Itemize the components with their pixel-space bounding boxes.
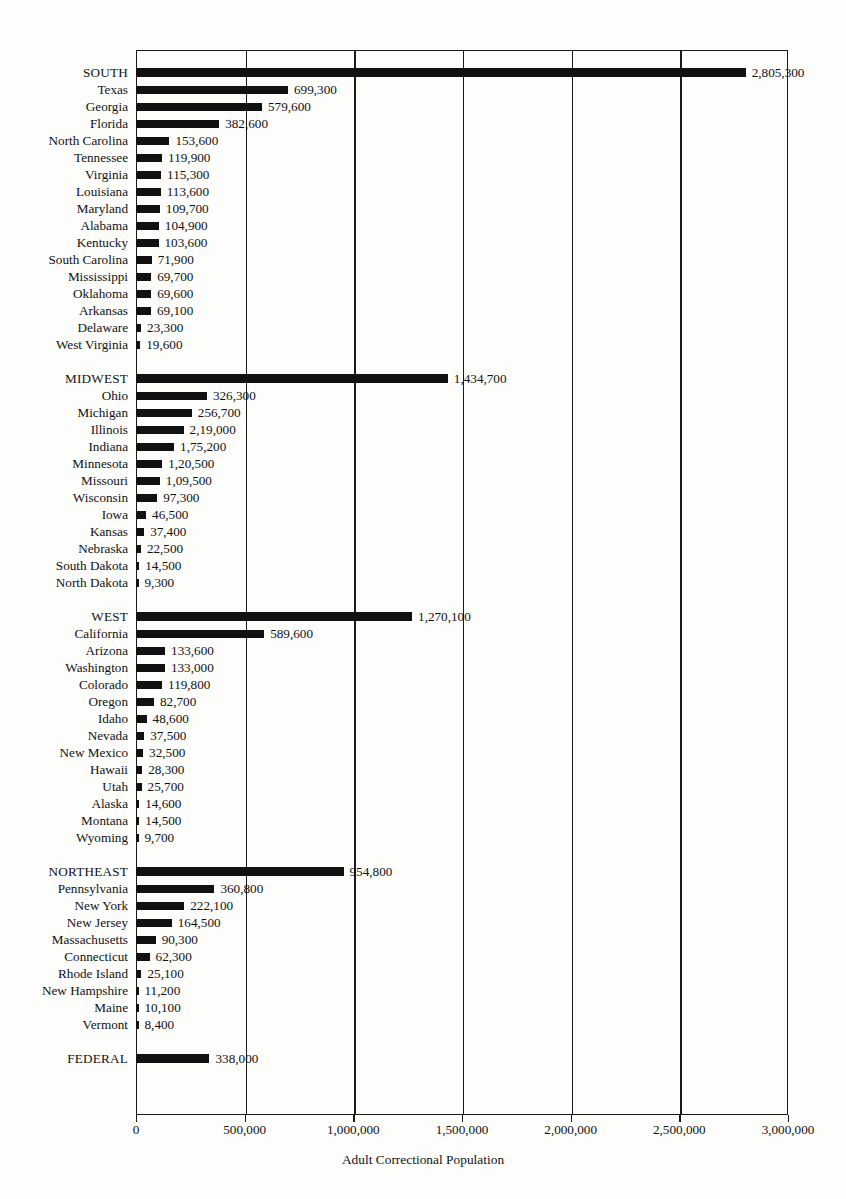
bar <box>136 817 139 825</box>
bar-value-label: 2,805,300 <box>752 64 805 81</box>
bar-value-label: 82,700 <box>160 693 196 710</box>
bar-row: Wyoming9,700 <box>0 829 846 846</box>
bar-row: Mississippi69,700 <box>0 268 846 285</box>
bar <box>136 103 262 111</box>
bar-value-label: 69,600 <box>157 285 193 302</box>
bar <box>136 324 141 332</box>
bar-value-label: 699,300 <box>294 81 337 98</box>
state-label: Arkansas <box>0 302 128 319</box>
bar-value-label: 90,300 <box>162 931 198 948</box>
state-label: Indiana <box>0 438 128 455</box>
bar-row: Oregon82,700 <box>0 693 846 710</box>
bar-value-label: 25,700 <box>148 778 184 795</box>
bar <box>136 545 141 553</box>
state-label: West Virginia <box>0 336 128 353</box>
bar-row: Missouri1,09,500 <box>0 472 846 489</box>
bar-value-label: 23,300 <box>147 319 183 336</box>
bar-value-label: 71,900 <box>158 251 194 268</box>
page-bleed-artifact <box>0 1182 846 1198</box>
bar <box>136 732 144 740</box>
bar <box>136 885 214 893</box>
state-label: Kansas <box>0 523 128 540</box>
bar <box>136 970 141 978</box>
bar-row: Colorado119,800 <box>0 676 846 693</box>
bar-row: Illinois2,19,000 <box>0 421 846 438</box>
state-label: Delaware <box>0 319 128 336</box>
bar-value-label: 954,800 <box>350 863 393 880</box>
bar <box>136 953 150 961</box>
bar-row: Connecticut62,300 <box>0 948 846 965</box>
state-label: New Mexico <box>0 744 128 761</box>
bar-value-label: 2,19,000 <box>190 421 236 438</box>
x-axis-tick <box>679 1115 680 1122</box>
bar-row: Vermont8,400 <box>0 1016 846 1033</box>
bar <box>136 290 151 298</box>
bar-value-label: 37,400 <box>150 523 186 540</box>
x-axis-tick <box>353 1115 354 1122</box>
bar-value-label: 1,20,500 <box>168 455 214 472</box>
state-label: Alaska <box>0 795 128 812</box>
bar <box>136 698 154 706</box>
bar-row: Minnesota1,20,500 <box>0 455 846 472</box>
bar-row: Michigan256,700 <box>0 404 846 421</box>
bar <box>136 681 162 689</box>
region-label: WEST <box>0 608 128 625</box>
bar-value-label: 37,500 <box>150 727 186 744</box>
bar-value-label: 48,600 <box>153 710 189 727</box>
bar-row: Georgia579,600 <box>0 98 846 115</box>
state-label: Florida <box>0 115 128 132</box>
bar-value-label: 113,600 <box>167 183 209 200</box>
bar-row: Nebraska22,500 <box>0 540 846 557</box>
bar-chart: SOUTH2,805,300Texas699,300Georgia579,600… <box>0 0 846 1199</box>
bar <box>136 511 146 519</box>
state-label: Hawaii <box>0 761 128 778</box>
bar <box>136 273 151 281</box>
state-label: Michigan <box>0 404 128 421</box>
bar <box>136 494 157 502</box>
state-label: Minnesota <box>0 455 128 472</box>
state-label: Iowa <box>0 506 128 523</box>
bar-row: Utah25,700 <box>0 778 846 795</box>
bar-value-label: 1,75,200 <box>180 438 226 455</box>
x-axis-tick <box>136 1115 137 1122</box>
state-label: North Dakota <box>0 574 128 591</box>
bar-value-label: 589,600 <box>270 625 313 642</box>
state-label: Mississippi <box>0 268 128 285</box>
bar-value-label: 256,700 <box>198 404 241 421</box>
bar <box>136 154 162 162</box>
bar-row: New York222,100 <box>0 897 846 914</box>
bar-value-label: 164,500 <box>178 914 221 931</box>
bar-value-label: 1,434,700 <box>454 370 507 387</box>
bar-row: Alabama104,900 <box>0 217 846 234</box>
bar-value-label: 14,500 <box>145 557 181 574</box>
bar <box>136 834 139 842</box>
bar-row: Louisiana113,600 <box>0 183 846 200</box>
bar-value-label: 22,500 <box>147 540 183 557</box>
state-label: Oregon <box>0 693 128 710</box>
bar <box>136 188 161 196</box>
region-label: SOUTH <box>0 64 128 81</box>
state-label: Colorado <box>0 676 128 693</box>
bar <box>136 68 746 77</box>
bar-row: WEST1,270,100 <box>0 608 846 625</box>
bar-value-label: 62,300 <box>156 948 192 965</box>
bar <box>136 612 412 621</box>
bar <box>136 409 192 417</box>
bar-value-label: 222,100 <box>190 897 233 914</box>
bar <box>136 936 156 944</box>
bar-row: Idaho48,600 <box>0 710 846 727</box>
bar <box>136 987 139 995</box>
bar-value-label: 10,100 <box>145 999 181 1016</box>
bar-row: Montana14,500 <box>0 812 846 829</box>
bar <box>136 426 184 434</box>
bar <box>136 239 159 247</box>
state-label: Rhode Island <box>0 965 128 982</box>
bar <box>136 392 207 400</box>
bar-row: SOUTH2,805,300 <box>0 64 846 81</box>
bar-value-label: 119,900 <box>168 149 210 166</box>
x-axis-tick <box>788 1115 789 1122</box>
bar-row: Maine10,100 <box>0 999 846 1016</box>
bar <box>136 171 161 179</box>
bar <box>136 528 144 536</box>
bar <box>136 205 160 213</box>
